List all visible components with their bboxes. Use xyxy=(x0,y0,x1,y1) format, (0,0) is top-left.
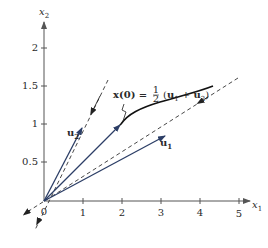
y-tick-1.5: 1.5 xyxy=(22,80,38,91)
diagram-canvas: 0 1 2 3 4 5 0.5 1 1.5 2 x1 x2 u2 u1 x(0)… xyxy=(0,0,268,248)
y-axis xyxy=(41,22,47,201)
u1-vector xyxy=(44,136,165,201)
y-tick-2: 2 xyxy=(32,42,38,53)
fraction-denominator: 2 xyxy=(153,93,159,104)
x-tick-1: 1 xyxy=(80,207,86,218)
u2-label: u2 xyxy=(67,127,79,141)
x1-axis-label: x1 xyxy=(252,199,262,213)
x2-axis-label: x2 xyxy=(39,6,49,20)
x-tick-2: 2 xyxy=(119,207,125,218)
u1-label: u1 xyxy=(160,137,172,151)
x-tick-5: 5 xyxy=(236,208,242,219)
x0-equation-label: x(0) = xyxy=(113,89,147,100)
u2-direction-dashed-line xyxy=(35,80,108,230)
x0-vector xyxy=(44,125,120,201)
x-tick-4: 4 xyxy=(197,207,203,218)
y-tick-1: 1 xyxy=(32,118,38,129)
x-tick-3: 3 xyxy=(158,207,164,218)
x-axis xyxy=(44,198,250,204)
y-tick-0.5: 0.5 xyxy=(22,156,38,167)
vector-diagram: 0 1 2 3 4 5 0.5 1 1.5 2 x1 x2 u2 u1 x(0)… xyxy=(0,0,268,248)
x0-equation-rhs: (u1 + u2) xyxy=(163,89,209,103)
